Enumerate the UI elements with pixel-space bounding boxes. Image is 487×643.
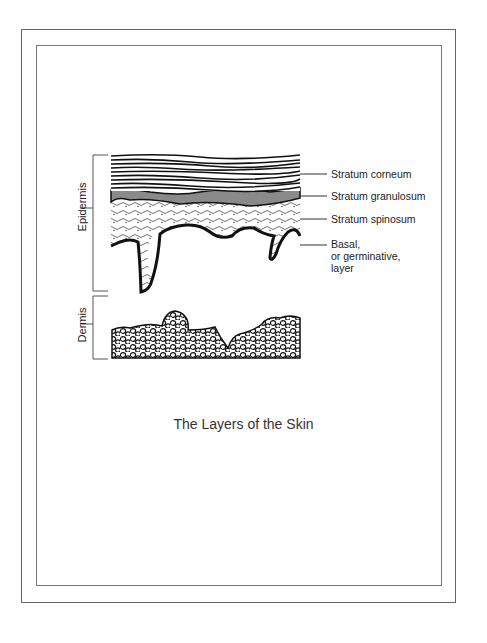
dermis-shape — [112, 311, 300, 358]
dermis-label: Dermis — [76, 295, 88, 355]
basal-layer-label: Basal, or germinative, layer — [331, 238, 400, 274]
epidermis-label: Epidermis — [76, 177, 88, 237]
stratum-corneum-shape — [111, 155, 300, 192]
stratum-granulosum-label: Stratum granulosum — [331, 190, 426, 202]
stratum-spinosum-label: Stratum spinosum — [331, 213, 416, 225]
figure-caption: The Layers of the Skin — [0, 416, 487, 432]
stratum-corneum-label: Stratum corneum — [331, 168, 412, 180]
skin-layers-illustration — [0, 0, 487, 643]
